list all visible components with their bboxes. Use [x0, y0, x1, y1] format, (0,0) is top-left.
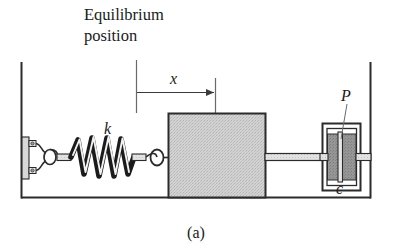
connecting-rod-body [265, 154, 327, 161]
spring-shank-bar-right [132, 154, 146, 161]
piston-rod-entry [320, 154, 328, 161]
bracket-bolt-lower [29, 168, 36, 174]
spring-mass-damper-diagram: Equilibrium position x [0, 0, 395, 249]
equilibrium-title-line-1: Equilibrium [84, 5, 164, 24]
spring-label: k [104, 120, 112, 137]
bracket-bolt-upper [29, 141, 36, 147]
dashpot-piston-plate [338, 132, 343, 182]
mass-block [169, 114, 266, 198]
connecting-rod [265, 154, 327, 161]
figure-container: Equilibrium position x [0, 0, 395, 249]
figure-caption: (a) [187, 224, 205, 242]
bracket-plate [22, 137, 29, 179]
displacement-label: x [169, 70, 177, 87]
dashpot-fluid-right [342, 134, 356, 180]
bolt-center-upper [31, 142, 34, 145]
piston-label: P [340, 87, 351, 104]
piston-rod-to-wall [356, 154, 371, 161]
dashpot-fluid-left [328, 134, 339, 180]
mass-block-body [169, 114, 266, 198]
equilibrium-title-line-2: position [84, 26, 137, 45]
damper-label: c [336, 180, 343, 197]
bolt-center-lower [31, 169, 34, 172]
